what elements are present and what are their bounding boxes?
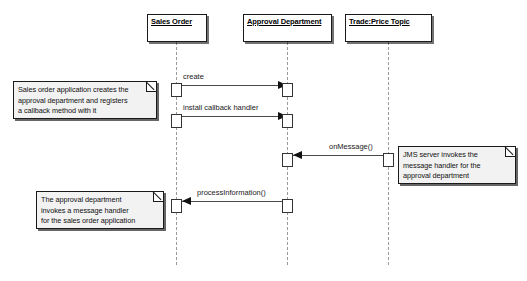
lifeline-label-sales-order: Sales Order [151,17,204,26]
lifeline-header-approval-department[interactable]: Approval Department [243,14,332,42]
note-text-jms-server: JMS server invokes the message handler f… [403,150,511,182]
activation-sales-order-install-callback[interactable] [171,114,182,128]
message-line-install-callback-handler[interactable] [176,116,287,117]
message-arrowhead-on-message [293,151,302,159]
note-line: message handler for the [403,161,511,172]
note-line: JMS server invokes the [403,150,511,161]
lifeline-label-trade-price-topic: Trade:Price Topic [349,17,429,26]
note-line: for the sales order application [41,216,159,227]
note-line: The approval department [41,195,159,206]
note-line: a callback method with it [18,106,152,117]
lifeline-header-trade-price-topic[interactable]: Trade:Price Topic [345,14,432,42]
activation-sales-order-process-information[interactable] [171,199,182,213]
message-line-create[interactable] [176,85,287,86]
note-sales-order[interactable]: Sales order application creates the appr… [13,81,157,119]
note-line: Sales order application creates the [18,85,152,96]
message-label-create: create [183,72,204,81]
activation-approval-department-on-message[interactable] [282,153,293,167]
note-line: approval department and registers [18,96,152,107]
activation-trade-price-topic-on-message[interactable] [383,153,394,167]
message-line-on-message[interactable] [293,155,388,156]
activation-approval-department-process-information[interactable] [282,199,293,213]
note-line: invokes a message handler [41,206,159,217]
message-label-install-callback-handler: install callback handler [183,103,258,112]
note-text-approval-department: The approval department invokes a messag… [41,195,159,227]
note-text-sales-order: Sales order application creates the appr… [18,85,152,117]
sequence-diagram-canvas: Sales Order Approval Department Trade:Pr… [0,0,527,281]
activation-approval-department-install-callback[interactable] [282,114,293,128]
lifeline-stem-sales-order [176,42,177,265]
message-label-process-information: processInformation() [197,188,266,197]
note-approval-department[interactable]: The approval department invokes a messag… [36,191,164,229]
message-label-on-message: onMessage() [329,142,373,151]
note-jms-server[interactable]: JMS server invokes the message handler f… [398,146,516,184]
lifeline-label-approval-department: Approval Department [247,17,329,26]
message-arrowhead-process-information [182,197,191,205]
message-line-process-information[interactable] [182,201,287,202]
activation-approval-department-create[interactable] [282,83,293,97]
note-line: approval department [403,171,511,182]
lifeline-header-sales-order[interactable]: Sales Order [147,14,207,42]
activation-sales-order-create[interactable] [171,83,182,97]
